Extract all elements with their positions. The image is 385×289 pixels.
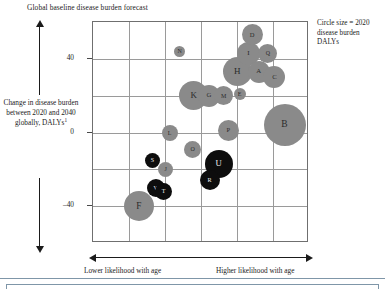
bubble-n[interactable]: N [174,46,185,57]
arrow-head-up-icon [36,20,44,27]
y-axis-down-arrow [39,178,40,246]
y-axis-tick-label: 40 [48,53,74,62]
footer-box [6,284,379,289]
y-axis-up-arrow [39,27,40,95]
y-axis-tick-mark [87,58,92,59]
gridline-horizontal [93,169,307,170]
x-axis-label-low: Lower likelihood with age [84,266,161,275]
bubble-d[interactable]: D [242,24,263,45]
y-axis-label-footnote: 1 [64,116,67,122]
arrow-head-down-icon [36,246,44,253]
y-axis-tick-mark [87,205,92,206]
chart-title: Global baseline disease burden forecast [27,3,148,12]
bubble-o[interactable]: O [184,141,201,158]
bubble-r[interactable]: R [200,170,220,190]
y-axis-tick-label: 0 [48,127,74,136]
bubble-m[interactable]: M [214,86,233,105]
bubble-p[interactable]: P [218,120,239,141]
y-axis-label-text: Change in disease burden between 2020 an… [4,98,79,127]
bubble-f[interactable]: F [124,191,154,221]
bubble-s[interactable]: S [145,153,160,168]
x-axis-label-high: Higher likelihood with age [216,266,294,275]
x-axis-arrow [96,257,306,258]
legend-size-note: Circle size = 2020 disease burden DALYs [317,19,383,48]
bubble-l[interactable]: L [162,125,178,141]
bubble-chart-figure: Global baseline disease burden forecast … [0,0,385,289]
bubble-q[interactable]: Q [258,44,277,63]
bubble-b[interactable]: B [264,104,306,146]
y-axis-tick-label: –40 [48,200,74,209]
bubble-e[interactable]: E [234,88,246,100]
y-axis-tick-mark [87,132,92,133]
y-axis-label: Change in disease burden between 2020 an… [2,98,80,127]
arrow-head-left-icon [89,254,96,262]
gridline-vertical [201,22,202,241]
bubble-j[interactable]: J [158,162,173,177]
arrow-head-right-icon [306,254,313,262]
bubble-t[interactable]: T [155,183,172,200]
footer-rule [0,278,385,279]
bubble-c[interactable]: C [263,66,285,88]
plot-area: BFHKUIACGDPRMQVOTLJSEN [92,21,308,242]
